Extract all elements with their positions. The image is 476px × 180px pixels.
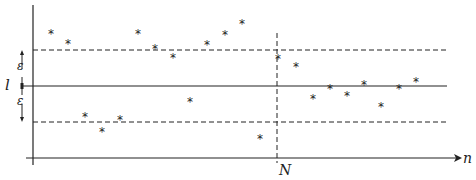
sequence-point: * xyxy=(327,83,333,95)
epsilon-upper-label: ε xyxy=(17,60,23,72)
sequence-point: * xyxy=(48,28,54,40)
sequence-point: * xyxy=(204,39,210,51)
sequence-point: * xyxy=(239,18,245,30)
sequence-point: * xyxy=(257,133,263,145)
arrow-down-icon xyxy=(20,117,24,122)
limit-label: l xyxy=(5,78,10,93)
sequence-point: * xyxy=(413,76,419,88)
sequence-point: * xyxy=(344,90,350,102)
sequence-point: * xyxy=(222,29,228,41)
sequence-point: * xyxy=(65,38,71,50)
diagram-lines xyxy=(0,0,476,180)
sequence-point: * xyxy=(275,53,281,65)
epsilon-lower-label: ε xyxy=(17,95,23,107)
sequence-point: * xyxy=(396,83,402,95)
convergence-diagram: l ε ε n N ********************** xyxy=(0,0,476,180)
sequence-point: * xyxy=(117,114,123,126)
sequence-point: * xyxy=(170,52,176,64)
sequence-point: * xyxy=(310,93,316,105)
sequence-point: * xyxy=(82,111,88,123)
sequence-point: * xyxy=(152,43,158,55)
N-label: N xyxy=(279,163,291,177)
sequence-point: * xyxy=(378,101,384,113)
sequence-point: * xyxy=(187,96,193,108)
x-axis-label: n xyxy=(463,151,472,165)
arrow-up-icon xyxy=(20,50,24,55)
sequence-point: * xyxy=(135,28,141,40)
sequence-point: * xyxy=(293,61,299,73)
sequence-point: * xyxy=(361,79,367,91)
sequence-point: * xyxy=(99,126,105,138)
